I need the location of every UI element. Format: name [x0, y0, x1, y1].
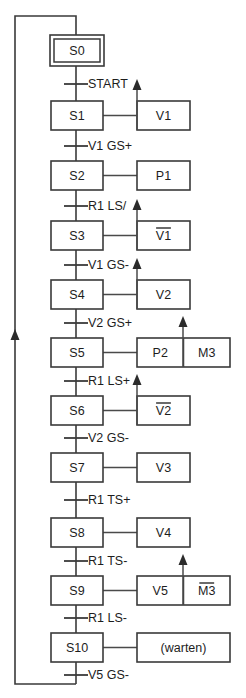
transition-label-t4: V2 GS+: [88, 316, 132, 330]
step-label-s5: S5: [69, 346, 84, 360]
action-label-a9: V5: [153, 584, 168, 598]
action-label-a5: P2: [153, 346, 168, 360]
action-arrow-icon-a1: [133, 79, 142, 90]
step-label-s4: S4: [69, 288, 84, 302]
action-label-a2: P1: [156, 169, 171, 183]
action-label-a5-second: M3: [198, 346, 215, 360]
action-label-a1: V1: [156, 109, 171, 123]
action-label-a6: V2: [156, 404, 171, 418]
step-label-s0: S0: [69, 44, 84, 58]
step-label-s10: S10: [66, 641, 88, 655]
step-label-s9: S9: [69, 584, 84, 598]
sfc-canvas: STARTV1 GS+R1 LS/V1 GS-V2 GS+R1 LS+V2 GS…: [0, 0, 246, 698]
action-arrow-icon-a6: [133, 374, 142, 385]
sfc-diagram: STARTV1 GS+R1 LS/V1 GS-V2 GS+R1 LS+V2 GS…: [0, 0, 246, 698]
action-arrow-icon-a9: [179, 554, 188, 565]
transition-label-t8: R1 TS-: [88, 554, 127, 568]
transition-label-t1: V1 GS+: [88, 139, 132, 153]
action-label-a3: V1: [156, 229, 171, 243]
action-label-a7: V3: [156, 461, 171, 475]
step-label-s7: S7: [69, 461, 84, 475]
transition-label-t3: V1 GS-: [88, 258, 129, 272]
action-arrow-icon-a4: [133, 258, 142, 269]
step-label-s3: S3: [69, 229, 84, 243]
transition-label-t5: R1 LS+: [88, 374, 130, 388]
step-label-s8: S8: [69, 526, 84, 540]
action-arrow-icon-a5: [179, 316, 188, 327]
transition-label-t7: R1 TS+: [88, 493, 131, 507]
action-arrow-icon-a3: [133, 199, 142, 210]
actions-layer: V1P1V1V2P2M3V2V3V4V5M3(warten): [133, 79, 231, 662]
action-label-a8: V4: [156, 526, 171, 540]
transition-label-t6: V2 GS-: [88, 431, 129, 445]
transition-label-t2: R1 LS/: [88, 199, 127, 213]
transition-label-t0: START: [88, 77, 128, 91]
transition-label-t9: R1 LS-: [88, 611, 127, 625]
step-label-s6: S6: [69, 404, 84, 418]
action-label-a9-second: M3: [198, 584, 215, 598]
transition-label-t10: V5 GS-: [88, 668, 129, 682]
step-label-s1: S1: [69, 109, 84, 123]
step-label-s2: S2: [69, 169, 84, 183]
action-label-a10: (warten): [161, 641, 207, 655]
return-loop-arrow-icon: [11, 329, 20, 340]
action-label-a4: V2: [156, 288, 171, 302]
